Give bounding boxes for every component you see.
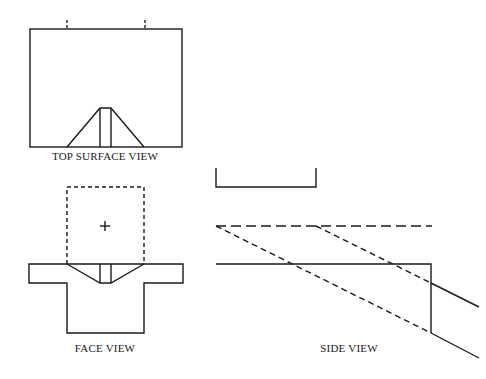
face-view-label: FACE VIEW (75, 342, 135, 354)
technical-drawing (0, 0, 486, 379)
side-solid-profile (216, 264, 431, 333)
side-bracket (216, 168, 316, 187)
side-dashed-diagonal-upper (316, 226, 431, 283)
top-surface-outline (30, 29, 182, 147)
top-surface-view-label: TOP SURFACE VIEW (52, 150, 158, 162)
side-solid-diagonal-lower (431, 333, 479, 358)
side-solid-diagonal-upper (431, 283, 479, 307)
face-outline (29, 264, 183, 333)
side-view (216, 168, 479, 358)
face-v-notch (67, 264, 144, 283)
face-view (29, 187, 183, 333)
top-trapezoid (67, 108, 144, 147)
top-surface-view (30, 20, 182, 147)
side-dashed-diagonal-lower (216, 226, 431, 333)
side-view-label: SIDE VIEW (320, 342, 378, 354)
